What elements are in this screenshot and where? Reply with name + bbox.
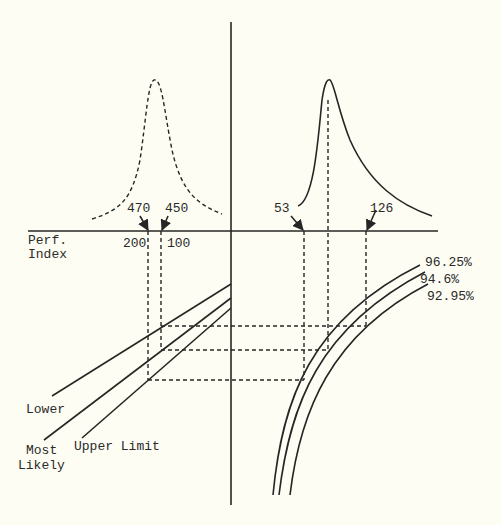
marker-label-450: 450 — [165, 201, 188, 216]
label-92-95: 92.95% — [427, 289, 474, 304]
arrow-470 — [140, 216, 148, 230]
label-most: Most — [26, 443, 57, 458]
axis-label-line1: Perf. — [28, 233, 67, 248]
marker-label-53: 53 — [274, 201, 290, 216]
label-94-6: 94.6% — [420, 272, 459, 287]
arrow-450 — [162, 216, 168, 230]
axis-label-line2: Index — [28, 247, 67, 262]
label-upper-limit: Upper Limit — [74, 439, 160, 454]
line-lower — [52, 284, 231, 396]
left-distribution-curve — [92, 80, 222, 219]
line-most-likely — [44, 298, 231, 440]
marker-label-470: 470 — [127, 201, 150, 216]
label-lower: Lower — [26, 402, 65, 417]
right-distribution-curve — [298, 80, 432, 216]
line-upper-limit — [82, 308, 231, 438]
diagram-canvas: 470 450 200 100 Perf. Index 53 126 Lower… — [0, 0, 502, 525]
axis-value-100: 100 — [167, 236, 190, 251]
axis-value-200: 200 — [123, 236, 146, 251]
label-likely: Likely — [18, 458, 65, 473]
curve-92-95 — [290, 284, 428, 495]
arrow-53 — [291, 216, 303, 230]
label-96-25: 96.25% — [425, 255, 472, 270]
curve-94-6 — [279, 272, 425, 495]
